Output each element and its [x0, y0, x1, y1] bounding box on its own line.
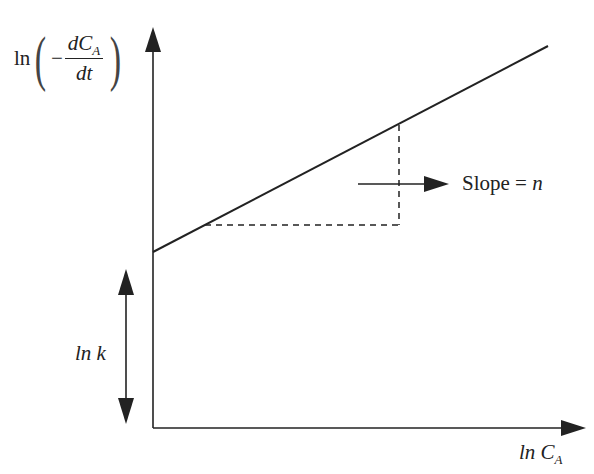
intercept-double-arrow: [118, 269, 134, 424]
y-axis: [145, 27, 161, 428]
slope-pointer-arrow: [358, 176, 449, 192]
arrowhead-up-icon: [118, 269, 134, 295]
y-axis-label: ln ( − dCA dt ): [14, 18, 126, 98]
slope-text: Slope: [462, 171, 510, 195]
ln-text: ln: [14, 46, 30, 71]
fraction-denominator: dt: [76, 59, 92, 86]
x-axis-arrowhead-icon: [561, 420, 586, 436]
fraction-numerator: dCA: [65, 31, 103, 59]
intercept-label: ln k: [75, 341, 106, 366]
y-axis-arrowhead-icon: [145, 27, 161, 52]
slope-label: Slope = n: [462, 171, 543, 196]
x-axis-label: ln CA: [519, 440, 563, 465]
equals-sign: =: [510, 171, 532, 195]
numerator-text: dC: [68, 31, 93, 55]
numerator-subscript: A: [92, 43, 100, 58]
x-axis-label-text: ln C: [519, 440, 555, 464]
arrowhead-right-icon: [424, 176, 449, 192]
arrowhead-down-icon: [118, 398, 134, 424]
rate-line: [153, 46, 548, 252]
x-axis-label-subscript: A: [555, 452, 563, 467]
right-paren: ): [110, 27, 121, 89]
slope-variable: n: [532, 171, 543, 195]
minus-sign: −: [51, 46, 63, 71]
derivative-fraction: dCA dt: [65, 31, 103, 86]
left-paren: (: [35, 27, 46, 89]
x-axis: [153, 420, 586, 436]
